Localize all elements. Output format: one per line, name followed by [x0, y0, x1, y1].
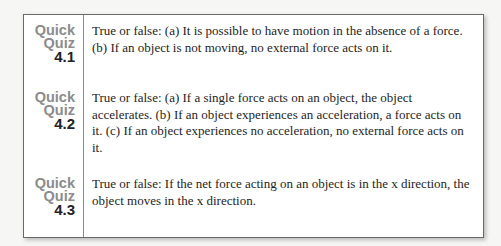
quiz-label: Quick Quiz 4.3 — [24, 177, 75, 216]
quick-quiz-box: Quick Quiz 4.1 True or false: (a) It is … — [23, 14, 484, 238]
quiz-question-text: True or false: (a) It is possible to hav… — [92, 23, 472, 56]
quiz-number: 4.3 — [24, 203, 75, 216]
quiz-question-text: True or false: If the net force acting o… — [92, 176, 472, 209]
quiz-number: 4.2 — [24, 117, 75, 130]
quiz-label: Quick Quiz 4.2 — [24, 91, 75, 130]
quiz-number: 4.1 — [24, 50, 75, 63]
quiz-question-text: True or false: (a) If a single force act… — [92, 90, 472, 156]
quiz-label: Quick Quiz 4.1 — [24, 24, 75, 63]
column-divider — [83, 15, 84, 237]
